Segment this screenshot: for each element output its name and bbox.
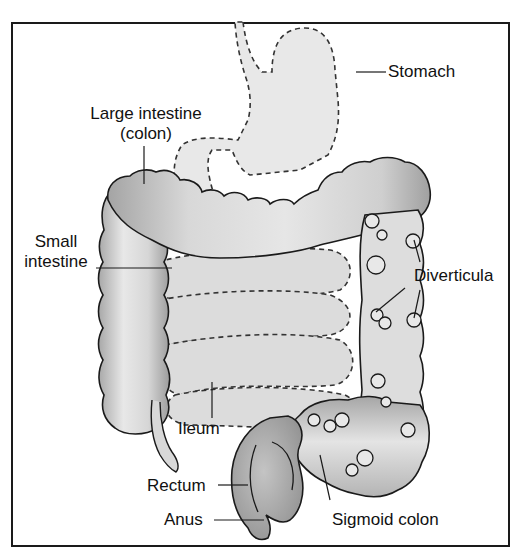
label-large-intestine: Large intestine (colon) [66, 104, 226, 144]
label-anus: Anus [164, 510, 203, 530]
label-ileum: Ileum [178, 419, 220, 439]
label-stomach: Stomach [388, 62, 455, 82]
label-large-intestine-line1: Large intestine [66, 104, 226, 124]
label-sigmoid-colon: Sigmoid colon [332, 510, 439, 530]
label-rectum: Rectum [147, 476, 206, 496]
label-small-intestine-line1: Small [16, 232, 96, 252]
label-small-intestine-line2: intestine [16, 252, 96, 272]
label-large-intestine-line2: (colon) [66, 124, 226, 144]
label-diverticula: Diverticula [414, 266, 493, 286]
label-small-intestine: Small intestine [16, 232, 96, 272]
rectum [232, 416, 303, 540]
sigmoid-colon [288, 396, 429, 496]
